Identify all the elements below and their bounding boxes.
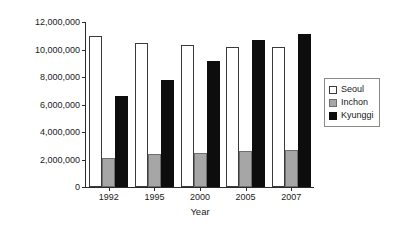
y-axis-tick-label: 10,000,000 — [35, 45, 80, 54]
legend-item-kyunggi: Kyunggi — [329, 109, 374, 122]
x-axis-label-1992: 1992 — [86, 193, 132, 202]
bar-group — [89, 22, 128, 187]
legend-swatch-inchon — [329, 99, 337, 107]
y-axis-tick-label: 8,000,000 — [40, 73, 80, 82]
x-axis-tick — [109, 187, 110, 191]
y-axis-tick — [82, 160, 86, 161]
bar-kyunggi-1995 — [161, 80, 174, 187]
bar-seoul-2000 — [181, 45, 194, 187]
bar-group — [272, 22, 311, 187]
bar-kyunggi-2000 — [207, 61, 220, 188]
plot-area: 02,000,0004,000,0006,000,0008,000,00010,… — [86, 22, 314, 187]
bar-group — [226, 22, 265, 187]
x-axis-tick — [291, 187, 292, 191]
x-axis-label-2005: 2005 — [223, 193, 269, 202]
legend-swatch-seoul — [329, 86, 337, 94]
bar-group — [181, 22, 220, 187]
x-axis-label-2000: 2000 — [177, 193, 223, 202]
bar-seoul-2007 — [272, 47, 285, 187]
bar-inchon-2005 — [239, 151, 252, 187]
y-axis-tick-label: 12,000,000 — [35, 18, 80, 27]
legend-swatch-kyunggi — [329, 112, 337, 120]
legend-item-seoul: Seoul — [329, 83, 374, 96]
x-axis-label-2007: 2007 — [268, 193, 314, 202]
y-axis-tick-label: 2,000,000 — [40, 155, 80, 164]
x-axis-tick — [200, 187, 201, 191]
y-axis-tick-label: 4,000,000 — [40, 128, 80, 137]
y-axis-tick — [82, 187, 86, 188]
x-axis-tick — [154, 187, 155, 191]
y-axis-tick — [82, 105, 86, 106]
y-axis-tick-label: 0 — [75, 183, 80, 192]
legend-item-inchon: Inchon — [329, 96, 374, 109]
y-axis-tick — [82, 50, 86, 51]
y-axis-tick — [82, 132, 86, 133]
bar-kyunggi-2005 — [252, 40, 265, 187]
bar-group — [135, 22, 174, 187]
legend-label-inchon: Inchon — [341, 98, 368, 107]
bar-kyunggi-2007 — [298, 34, 311, 187]
bar-seoul-1992 — [89, 36, 102, 187]
bar-inchon-1995 — [148, 154, 161, 187]
y-axis-tick — [82, 22, 86, 23]
bar-kyunggi-1992 — [115, 96, 128, 187]
legend-label-seoul: Seoul — [341, 85, 364, 94]
bar-seoul-1995 — [135, 43, 148, 187]
bar-inchon-1992 — [102, 158, 115, 187]
bar-seoul-2005 — [226, 47, 239, 187]
legend-label-kyunggi: Kyunggi — [341, 111, 374, 120]
y-axis-tick-label: 6,000,000 — [40, 100, 80, 109]
x-axis-tick — [246, 187, 247, 191]
x-axis-title: Year — [86, 206, 314, 217]
y-axis-tick — [82, 77, 86, 78]
x-axis-label-1995: 1995 — [132, 193, 178, 202]
bar-inchon-2000 — [194, 153, 207, 187]
bar-chart: Persons 02,000,0004,000,0006,000,0008,00… — [0, 0, 401, 238]
legend: SeoulInchonKyunggi — [324, 78, 380, 127]
bar-inchon-2007 — [285, 150, 298, 187]
